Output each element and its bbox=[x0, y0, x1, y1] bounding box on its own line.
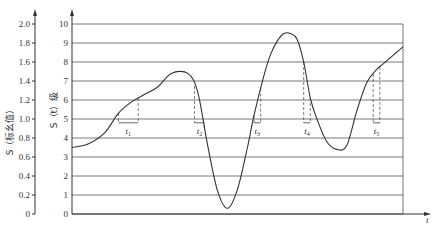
interval-label: t1 bbox=[126, 126, 132, 137]
chart-svg: 00.20.40.60.81.01.21.41.61.82.0 01234567… bbox=[0, 0, 436, 226]
interval-annotations: t1t2t3t4t5 bbox=[118, 62, 379, 137]
right-tick-label: 3 bbox=[64, 152, 69, 162]
x-axis-label: t bbox=[426, 215, 429, 225]
left-tick-label: 0.6 bbox=[19, 152, 31, 162]
right-tick-label: 1 bbox=[64, 190, 69, 200]
s-t-curve bbox=[72, 33, 403, 209]
right-tick-label: 6 bbox=[64, 95, 69, 105]
right-tick-label: 8 bbox=[64, 57, 69, 67]
left-tick-label: 1.0 bbox=[19, 114, 31, 124]
left-tick-label: 1.6 bbox=[19, 57, 31, 67]
interval-label: t2 bbox=[197, 126, 203, 137]
right-tick-label: 2 bbox=[64, 171, 69, 181]
right-tick-label: 0 bbox=[64, 209, 69, 219]
right-axis-label: S（t）级 bbox=[48, 92, 59, 128]
left-tick-label: 1.2 bbox=[19, 95, 30, 105]
left-tick-label: 0 bbox=[26, 209, 31, 219]
right-tick-label: 10 bbox=[59, 19, 69, 29]
left-tick-label: 2.0 bbox=[19, 19, 31, 29]
right-tick-label: 9 bbox=[64, 38, 69, 48]
right-tick-label: 4 bbox=[64, 133, 69, 143]
left-tick-label: 0.4 bbox=[19, 171, 31, 181]
grid-lines bbox=[72, 24, 403, 214]
left-tick-label: 0.8 bbox=[19, 133, 31, 143]
interval-label: t4 bbox=[304, 126, 310, 137]
main-axis: 012345678910 bbox=[59, 9, 431, 219]
left-tick-label: 1.8 bbox=[19, 38, 31, 48]
right-tick-label: 5 bbox=[64, 114, 69, 124]
interval-label: t5 bbox=[374, 126, 380, 137]
interval-label: t3 bbox=[255, 126, 261, 137]
right-tick-label: 7 bbox=[64, 76, 69, 86]
left-tick-label: 1.4 bbox=[19, 76, 31, 86]
left-axis: 00.20.40.60.81.01.21.41.61.82.0 bbox=[19, 9, 37, 219]
left-axis-label: S（标幺值） bbox=[4, 105, 15, 156]
left-tick-label: 0.2 bbox=[19, 190, 30, 200]
